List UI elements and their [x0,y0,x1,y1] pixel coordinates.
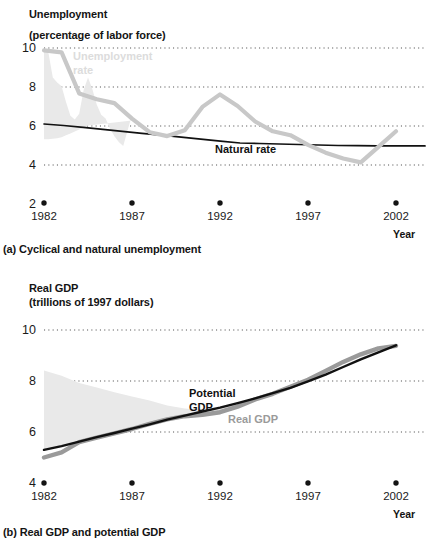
panel-a-x-tick-dots [41,200,398,205]
panel-b-ytick-6: 6 [16,426,36,438]
panel-b-x-tick-dots [41,480,398,485]
panel-b-caption: (b) Real GDP and potential GDP [3,526,165,538]
panel-b-xtick-1987: 1987 [110,490,154,502]
panel-b-svg [0,262,435,551]
chart-panel-real-gdp: Real GDP (trillions of 1997 dollars) [0,262,435,551]
panel-b-xtick-1992: 1992 [198,490,242,502]
panel-b-ytick-10: 10 [16,324,36,336]
panel-a-label-natural-rate: Natural rate [215,142,276,156]
panel-b-x-axis-label: Year [393,508,415,520]
figure-unemployment-and-gdp: Unemployment (percentage of labor force) [0,0,435,551]
panel-a-ytick-8: 8 [16,81,36,93]
panel-a-ytick-6: 6 [16,120,36,132]
panel-a-caption: (a) Cyclical and natural unemployment [3,243,201,255]
panel-a-ytick-10: 10 [16,42,36,54]
panel-b-xtick-1997: 1997 [286,490,330,502]
panel-b-xtick-2002: 2002 [374,490,418,502]
chart-panel-cyclical-unemployment: Unemployment (percentage of labor force) [0,0,435,262]
panel-b-label-potential-gdp-line1: Potential [189,386,235,400]
panel-b-xtick-1982: 1982 [22,490,66,502]
panel-a-xtick-1982: 1982 [22,210,66,222]
panel-a-svg [0,0,435,262]
panel-a-xtick-1992: 1992 [198,210,242,222]
panel-a-label-unemployment-rate-line1: Unemployment [73,49,152,63]
panel-a-xtick-1987: 1987 [110,210,154,222]
panel-b-label-real-gdp: Real GDP [228,412,278,426]
panel-a-x-axis-label: Year [393,228,415,240]
panel-a-label-unemployment-rate-line2: rate [73,63,93,77]
panel-a-xtick-2002: 2002 [374,210,418,222]
panel-b-label-potential-gdp-line2: GDP [189,400,213,414]
panel-b-ytick-8: 8 [16,375,36,387]
panel-a-ytick-4: 4 [16,159,36,171]
panel-b-ytick-4: 4 [16,477,36,489]
panel-a-ytick-2: 2 [16,198,36,210]
panel-a-xtick-1997: 1997 [286,210,330,222]
panel-b-plot-area [0,262,435,551]
panel-a-plot-area [0,0,435,262]
